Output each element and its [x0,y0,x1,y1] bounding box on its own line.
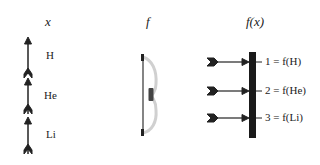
diagram-graphics [0,0,320,165]
target-bar [249,52,262,138]
arrow-icon-Li [24,117,32,154]
arrow-icon-right-1 [207,58,249,66]
arrow-icon-right-3 [207,114,249,122]
arrow-icon-right-2 [207,87,249,95]
arrow-icon-He [24,78,32,114]
bow-icon [141,54,156,136]
arrow-icon-H [24,37,32,78]
